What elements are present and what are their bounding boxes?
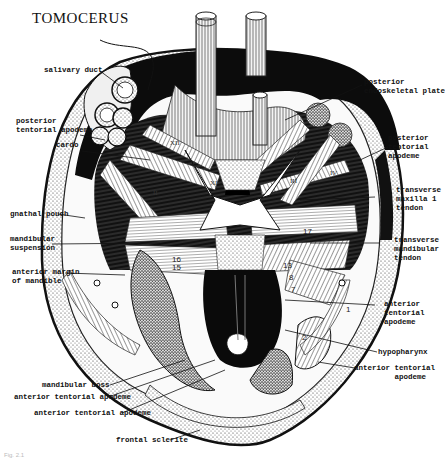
svg-text:1: 1 <box>346 305 351 314</box>
label-mandibular-suspension: mandibular suspension <box>10 235 55 253</box>
svg-text:7: 7 <box>291 285 296 294</box>
svg-text:15: 15 <box>172 263 181 272</box>
label-salivary-duct: salivary duct <box>44 66 103 75</box>
svg-text:XII: XII <box>170 139 180 147</box>
svg-text:II: II <box>153 189 158 197</box>
label-posterior-endoskeletal-plate: posterior endoskeletal plate <box>364 78 445 96</box>
label-posterior-tentorial-apodeme-left: posterior tentorial apodeme <box>16 117 93 135</box>
svg-text:IV: IV <box>330 169 337 177</box>
label-posterior-tentorial-apodeme-right: posterior tentorial apodeme <box>388 134 429 161</box>
svg-text:17: 17 <box>303 227 312 236</box>
svg-text:XI: XI <box>210 179 218 187</box>
svg-text:III: III <box>290 177 298 185</box>
label-anterior-margin-of-mandible: anterior margin of mandible <box>12 268 80 286</box>
svg-text:13: 13 <box>283 261 292 270</box>
label-cardo: cardo <box>56 141 79 150</box>
label-anterior-tentorial-apodeme-left-1: anterior tentorial apodeme <box>14 393 131 402</box>
label-transverse-maxilla-1-tendon: transverse maxilla 1 tendon <box>396 186 441 213</box>
label-transverse-mandibular-tendon: transverse mandibular tendon <box>394 236 439 263</box>
label-mandibular-boss: mandibular boss <box>42 381 110 390</box>
label-anterior-tentorial-apodeme-left-2: anterior tentorial apodeme <box>34 409 151 418</box>
label-hypopharynx: hypopharynx <box>378 348 428 357</box>
label-frontal-sclerite: frontal sclerite <box>116 436 188 445</box>
svg-text:8: 8 <box>289 273 294 282</box>
label-gnathal-pouch: gnathal pouch <box>10 210 69 219</box>
label-anterior-tentorial-apodeme-right-upper: anterior tentorial apodeme <box>384 300 425 327</box>
figure-caption: Fig. 2.1 <box>4 452 24 458</box>
label-anterior-tentorial-apodeme-right-lower: anterior tentorial apodeme <box>354 364 435 382</box>
